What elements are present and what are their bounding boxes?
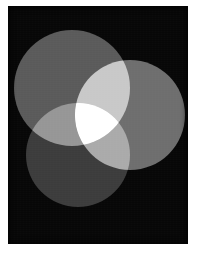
image-panel xyxy=(8,6,188,244)
circle-bottom-left xyxy=(26,103,130,207)
figure-root xyxy=(0,0,200,256)
circle-stack xyxy=(8,6,188,244)
